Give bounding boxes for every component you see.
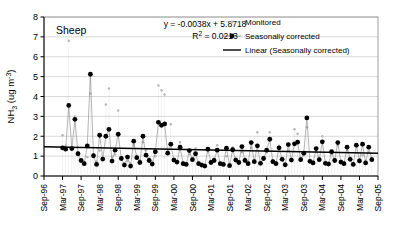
seasonally-corrected-point [193, 151, 198, 156]
x-axis-tick-label: Mar-99 [132, 184, 142, 211]
x-axis-tick-label: Mar-05 [355, 184, 365, 211]
monitored-point [61, 134, 64, 137]
seasonally-corrected-point [66, 103, 71, 108]
x-axis-tick-label: Mar-01 [206, 184, 216, 211]
panel-label: Sheep [56, 24, 87, 36]
seasonally-corrected-point [122, 163, 127, 168]
seasonally-corrected-point [103, 134, 108, 139]
monitored-point [361, 154, 364, 157]
monitored-point [321, 135, 324, 138]
x-axis-tick-label: Mar-98 [95, 184, 105, 211]
nh3-timeseries-chart: 012345678NH3 (ug m-3)Sep-96Mar-97Sep-97M… [0, 0, 397, 237]
x-axis-tick-label-text: Mar-05 [355, 184, 365, 211]
seasonally-corrected-point [110, 159, 115, 164]
x-axis-tick-label: Mar-97 [58, 184, 68, 211]
x-axis-tick-label-text: Sep-01 [225, 184, 235, 212]
y-axis-title: NH3 (ug m-3) [5, 70, 18, 124]
x-axis-tick-label: Mar-04 [317, 184, 327, 211]
x-axis-tick-label: Sep-05 [373, 184, 383, 212]
equation-annotation: y = -0.0038x + 5.8718 [164, 19, 247, 29]
y-axis-tick-label: 5 [33, 72, 38, 82]
x-axis-tick-label-text: Sep-00 [188, 184, 198, 212]
monitored-point [216, 144, 219, 147]
seasonally-corrected-point [345, 145, 350, 150]
seasonally-corrected-point [360, 142, 365, 147]
x-axis-tick-label: Sep-01 [225, 184, 235, 212]
seasonally-corrected-point [317, 157, 322, 162]
seasonally-corrected-point [100, 157, 105, 162]
y-axis-tick-label: 0 [33, 171, 38, 181]
legend-item-label: Monitored [245, 18, 281, 27]
y-axis-tick-label: 3 [33, 112, 38, 122]
x-axis-tick-label: Sep-00 [188, 184, 198, 212]
seasonally-corrected-point [369, 157, 374, 162]
seasonally-corrected-point [280, 157, 285, 162]
seasonally-corrected-point [141, 134, 146, 139]
seasonally-corrected-point [249, 140, 254, 145]
monitored-point [117, 109, 120, 112]
seasonally-corrected-point [175, 160, 180, 165]
legend-item-label: Seasonally corrected [245, 32, 320, 41]
monitored-point [163, 93, 166, 96]
seasonally-corrected-point [73, 117, 78, 122]
seasonally-corrected-point [311, 160, 316, 165]
monitored-point [269, 131, 272, 134]
seasonally-corrected-point [190, 157, 195, 162]
seasonally-corrected-point [267, 137, 272, 142]
x-axis-tick-label-text: Sep-97 [76, 184, 86, 212]
seasonally-corrected-point [255, 143, 260, 148]
seasonally-corrected-point [286, 142, 291, 147]
seasonally-corrected-point [212, 158, 217, 163]
seasonally-corrected-point [119, 156, 124, 161]
x-axis-tick-label: Mar-02 [243, 184, 253, 211]
seasonally-corrected-point [168, 142, 173, 147]
seasonally-corrected-point [221, 162, 226, 167]
seasonally-corrected-point [162, 122, 167, 127]
seasonally-corrected-point [258, 161, 263, 166]
seasonally-corrected-point [206, 147, 211, 152]
x-axis-tick-label: Sep-99 [150, 184, 160, 212]
y-axis-tick-label: 8 [33, 12, 38, 22]
x-axis-tick-label-text: Sep-96 [39, 184, 49, 212]
seasonally-corrected-point [363, 160, 368, 165]
monitored-point [179, 141, 182, 144]
seasonally-corrected-point [246, 161, 251, 166]
x-axis-tick-label: Sep-04 [336, 184, 346, 212]
seasonally-corrected-point [128, 164, 133, 169]
monitored-point [296, 133, 299, 136]
x-axis-tick-label: Sep-98 [113, 184, 123, 212]
monitored-point [256, 131, 259, 134]
x-axis-tick-label: Mar-00 [169, 184, 179, 211]
chart-container: 012345678NH3 (ug m-3)Sep-96Mar-97Sep-97M… [0, 0, 397, 237]
y-axis-tick-label: 1 [33, 151, 38, 161]
seasonally-corrected-point [88, 72, 93, 77]
y-axis: 012345678 [33, 12, 44, 181]
x-axis-tick-label-text: Mar-98 [95, 184, 105, 211]
seasonally-corrected-point [153, 149, 158, 154]
y-axis-tick-label: 7 [33, 32, 38, 42]
seasonally-corrected-point [150, 162, 155, 167]
x-axis-tick-label-text: Mar-04 [317, 184, 327, 211]
seasonally-corrected-point [289, 158, 294, 163]
x-axis-tick-label: Sep-03 [299, 184, 309, 212]
seasonally-corrected-point [252, 159, 257, 164]
trendline [44, 147, 378, 154]
seasonally-corrected-point [91, 153, 96, 158]
seasonally-corrected-point [326, 162, 331, 167]
legend-item-label: Linear (Seasonally corrected) [245, 46, 350, 55]
seasonally-corrected-point [227, 163, 232, 168]
x-axis-tick-label-text: Sep-04 [336, 184, 346, 212]
seasonally-corrected-point [314, 146, 319, 151]
monitored-point [98, 149, 101, 152]
seasonally-corrected-point [351, 162, 356, 167]
seasonally-corrected-point [366, 145, 371, 150]
x-axis-tick-label-text: Mar-97 [58, 184, 68, 211]
seasonally-corrected-point [107, 127, 112, 132]
x-axis-tick-label-text: Mar-02 [243, 184, 253, 211]
x-axis-tick-label: Sep-02 [262, 184, 272, 212]
seasonally-corrected-point [94, 162, 99, 167]
seasonally-corrected-point [116, 132, 121, 137]
seasonally-corrected-point [144, 153, 149, 158]
seasonally-corrected-point [76, 151, 81, 156]
series-monitored [61, 40, 373, 176]
